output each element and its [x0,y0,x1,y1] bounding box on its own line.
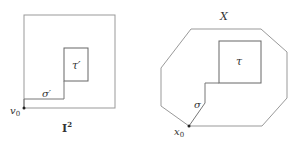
diagram-canvas: τ′ σ′ v0 I2 X τ σ x0 [0,0,303,145]
label-sigma: σ [194,99,202,110]
label-x0: x0 [174,126,184,139]
space-x-octagon [161,29,287,126]
basepoint-x0 [188,125,191,128]
basepoint-v0 [23,107,26,110]
outer-square-i2 [24,15,115,108]
label-x: X [219,10,229,23]
label-tau: τ [236,55,243,68]
label-i2: I2 [62,120,72,135]
label-tau-prime: τ′ [72,59,81,72]
label-sigma-prime: σ′ [42,88,52,99]
label-v0: v0 [10,105,20,118]
